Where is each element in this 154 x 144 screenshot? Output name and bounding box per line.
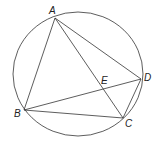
segment-AD xyxy=(55,18,141,79)
label-A: A xyxy=(48,5,56,16)
label-B: B xyxy=(14,108,21,119)
segment-BD xyxy=(24,79,141,110)
segment-AB xyxy=(24,18,55,110)
label-C: C xyxy=(125,118,133,129)
geometry-diagram: A B C D E xyxy=(0,0,154,144)
segment-AC xyxy=(55,18,123,118)
label-D: D xyxy=(144,72,151,83)
label-E: E xyxy=(101,75,108,86)
segment-BC xyxy=(24,110,123,118)
diagram-canvas: A B C D E xyxy=(0,0,154,144)
